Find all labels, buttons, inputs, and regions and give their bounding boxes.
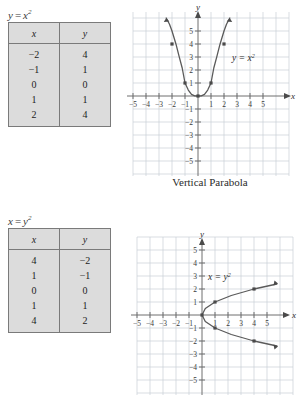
cell-y: 1 <box>60 62 111 77</box>
x-tick-label: 2 <box>222 100 226 109</box>
x-tick-label: 4 <box>252 319 256 328</box>
equation-operator: = <box>13 215 23 227</box>
table-row: 4 −2 <box>9 250 111 269</box>
curve-eq-lhs: x <box>207 272 213 282</box>
table-horizontal-parabola: x y 4 −2 1 −1 0 0 1 1 4 2 <box>8 228 111 333</box>
table-row: 2 4 <box>9 107 111 127</box>
table-header-x: x <box>9 229 60 250</box>
cell-y: 1 <box>60 92 111 107</box>
data-point <box>213 300 216 303</box>
y-tick-label: 3 <box>189 53 193 62</box>
table-header-x: x <box>9 23 60 44</box>
y-tick-label: 2 <box>189 66 193 75</box>
table-header-y: y <box>60 23 111 44</box>
data-point <box>213 326 216 329</box>
cell-y: 2 <box>60 313 111 333</box>
table-header-row: x y <box>9 23 111 44</box>
cell-y: 0 <box>60 77 111 92</box>
y-tick-label: −3 <box>189 350 197 359</box>
y-axis-name: y <box>199 229 204 239</box>
x-axis-name: x <box>290 91 295 101</box>
table-row: −1 1 <box>9 62 111 77</box>
x-tick-label: 5 <box>261 100 265 109</box>
table-row: 0 0 <box>9 77 111 92</box>
y-tick-label: 1 <box>193 298 197 307</box>
x-tick-label: −2 <box>172 319 180 328</box>
x-tick-label: 4 <box>248 100 252 109</box>
y-tick-label: −1 <box>185 105 193 114</box>
y-axis-arrow <box>199 238 205 245</box>
equation-rhs-exponent: 2 <box>28 8 32 16</box>
y-tick-label: −1 <box>189 324 197 333</box>
graph-vertical-parabola: −5 −4 −3 −2 −1 1 2 3 4 5 5 4 3 2 1 −1 −2… <box>124 6 296 178</box>
cell-x: 1 <box>9 268 60 283</box>
cell-y: 1 <box>60 298 111 313</box>
x-tick-label: −4 <box>142 100 150 109</box>
cell-y: 4 <box>60 44 111 63</box>
data-point <box>252 287 255 290</box>
x-axis-arrow <box>284 93 291 99</box>
curve-eq-op: = <box>239 53 244 63</box>
x-tick-label: 3 <box>235 100 239 109</box>
y-tick-label: 2 <box>193 285 197 294</box>
y-axis-arrow <box>195 11 201 18</box>
table-row: −2 4 <box>9 44 111 63</box>
y-tick-label: −3 <box>185 131 193 140</box>
x-tick-label: −4 <box>146 319 154 328</box>
graph-svg-horizontal: −5 −4 −3 −2 −1 1 2 3 4 5 5 4 3 2 1 −1 −2… <box>128 228 298 396</box>
graph-svg-vertical: −5 −4 −3 −2 −1 1 2 3 4 5 5 4 3 2 1 −1 −2… <box>124 6 296 178</box>
x-tick-label: −3 <box>159 319 167 328</box>
curve-equation-label: x=y2 <box>207 272 231 282</box>
y-tick-label: 5 <box>193 246 197 255</box>
curve-eq-exp: 2 <box>228 272 231 278</box>
y-tick-label: 1 <box>189 79 193 88</box>
cell-x: −1 <box>9 62 60 77</box>
data-point <box>183 81 186 84</box>
y-tick-label: 5 <box>189 27 193 36</box>
table-header-row: x y <box>9 229 111 250</box>
table-row: 0 0 <box>9 283 111 298</box>
y-tick-label: −4 <box>189 363 197 372</box>
equation-caption-horizontal: x=y2 <box>8 214 32 227</box>
axes <box>127 18 284 176</box>
cell-x: −2 <box>9 44 60 63</box>
table-row: 1 −1 <box>9 268 111 283</box>
y-tick-label: −2 <box>189 337 197 346</box>
x-tick-label: 2 <box>226 319 230 328</box>
y-tick-label: 4 <box>193 259 197 268</box>
table-header-y: y <box>60 229 111 250</box>
y-tick-label: 4 <box>189 40 193 49</box>
y-tick-label: 3 <box>193 272 197 281</box>
cell-x: 0 <box>9 77 60 92</box>
data-point <box>222 42 225 45</box>
cell-y: −1 <box>60 268 111 283</box>
x-tick-label: −2 <box>168 100 176 109</box>
x-tick-label: −5 <box>133 319 141 328</box>
table-row: 1 1 <box>9 92 111 107</box>
data-point <box>170 42 173 45</box>
cell-x: 2 <box>9 107 60 127</box>
x-axis-arrow <box>283 312 290 318</box>
y-axis-name: y <box>195 6 200 12</box>
caption-vertical-parabola: Vertical Parabola <box>124 176 296 188</box>
equation-caption-vertical: y=x2 <box>8 8 32 21</box>
x-tick-label: −5 <box>129 100 137 109</box>
x-tick-label: 3 <box>239 319 243 328</box>
x-axis-name: x <box>291 310 296 320</box>
cell-y: −2 <box>60 250 111 269</box>
equation-rhs-exponent: 2 <box>28 214 32 222</box>
equation-operator: = <box>13 9 23 21</box>
graph-horizontal-parabola: −5 −4 −3 −2 −1 1 2 3 4 5 5 4 3 2 1 −1 −2… <box>128 228 298 396</box>
y-tick-label: −5 <box>185 157 193 166</box>
cell-x: 4 <box>9 250 60 269</box>
cell-y: 4 <box>60 107 111 127</box>
curve-equation-label: y=x2 <box>231 53 255 63</box>
x-tick-labels: −5 −4 −3 −2 −1 1 2 3 4 5 <box>129 100 265 109</box>
y-tick-label: −5 <box>189 376 197 385</box>
x-tick-label: 1 <box>209 100 213 109</box>
x-tick-label: −3 <box>155 100 163 109</box>
data-point <box>252 339 255 342</box>
curve-eq-lhs: y <box>231 53 237 63</box>
y-tick-label: −4 <box>185 144 193 153</box>
x-tick-label: 5 <box>265 319 269 328</box>
